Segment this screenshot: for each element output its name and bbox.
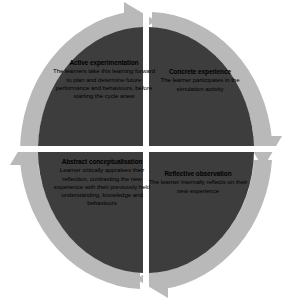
quadrant-abstract-conceptualisation-body: Learner critically appraises their refle… bbox=[48, 166, 156, 207]
quadrant-concrete-experience-title: Concrete experience bbox=[148, 68, 252, 76]
kolb-learning-cycle-diagram: Active experimentation The learners take… bbox=[0, 0, 292, 300]
quadrant-abstract-conceptualisation-title: Abstract conceptualisation bbox=[48, 158, 156, 166]
quadrant-active-experimentation: Active experimentation The learners take… bbox=[52, 59, 156, 100]
quadrant-abstract-conceptualisation: Abstract conceptualisation Learner criti… bbox=[48, 158, 156, 207]
divider-horizontal bbox=[6, 146, 286, 152]
quadrant-reflective-observation: Reflective observation The learner inter… bbox=[146, 170, 250, 195]
quadrant-reflective-observation-body: The learner internally reflects on their… bbox=[146, 178, 250, 194]
quadrant-reflective-observation-title: Reflective observation bbox=[146, 170, 250, 178]
quadrant-concrete-experience-body: The learner participates in the simulati… bbox=[148, 76, 252, 92]
quadrant-concrete-experience: Concrete experience The learner particip… bbox=[148, 68, 252, 93]
quadrant-active-experimentation-title: Active experimentation bbox=[52, 59, 156, 67]
cycle-graphic bbox=[0, 0, 292, 300]
quadrant-dividers bbox=[6, 6, 286, 294]
quadrant-active-experimentation-body: The learners take this learning forward … bbox=[52, 67, 156, 100]
